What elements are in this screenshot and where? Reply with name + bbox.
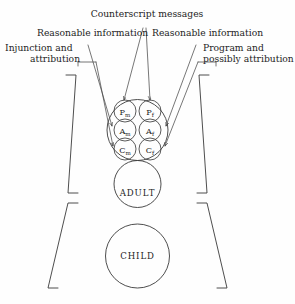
label-reasonable-information-right: Reasonable information (152, 27, 263, 38)
diagram-canvas: Pm Pf Am Af Cm Cf ADULT C (0, 0, 295, 304)
outline-adult-child-segment (48, 203, 227, 288)
arrow-reasonable-information-right (166, 45, 196, 126)
label-reasonable-information-left: Reasonable information (37, 27, 148, 38)
label-adult-in-parent-mother: Am (118, 126, 131, 137)
adult-ego-state: ADULT (114, 161, 161, 208)
child-ego-state: CHILD (106, 224, 170, 288)
label-child-in-parent-mother: Cm (119, 145, 131, 156)
label-injunction-line-1: Injunction and (5, 42, 73, 53)
parent-circle (107, 100, 168, 161)
label-program-line-2: possibly attribution (203, 53, 294, 64)
label-injunction-line-2: attribution (30, 53, 80, 64)
parent-ego-state: Pm Pf Am Af Cm Cf (107, 100, 168, 161)
ego-state-diagram: Pm Pf Am Af Cm Cf ADULT C (0, 0, 295, 304)
label-counterscript-messages: Counterscript messages (91, 8, 204, 19)
label-child-in-parent-father: Cf (146, 145, 155, 156)
adult-label: ADULT (119, 188, 156, 198)
label-program-line-1: Program and (203, 42, 264, 53)
arrow-injunction-attribution (78, 62, 113, 146)
child-label: CHILD (120, 251, 155, 261)
outline-parent-segment (66, 75, 209, 193)
arrows-counterscript (124, 28, 150, 100)
label-adult-in-parent-father: Af (145, 126, 155, 137)
label-parent-in-parent-father: Pf (146, 107, 155, 118)
adult-circle (114, 161, 161, 208)
arrow-reasonable-information-left (88, 45, 112, 126)
label-parent-in-parent-mother: Pm (120, 107, 132, 118)
